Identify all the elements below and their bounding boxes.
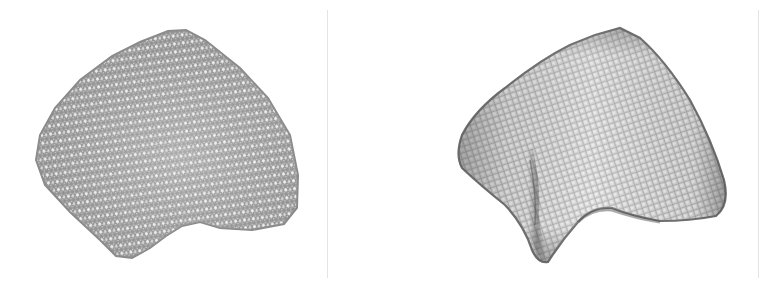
panel-triangle-mesh	[0, 0, 330, 287]
panel-quad-mesh	[330, 0, 760, 287]
quad-mesh-render	[330, 0, 760, 287]
panel-divider	[758, 10, 759, 278]
figure	[0, 0, 781, 287]
panel-divider	[327, 10, 328, 278]
triangle-mesh-render	[0, 0, 330, 287]
quad-mesh-surface	[459, 28, 726, 262]
